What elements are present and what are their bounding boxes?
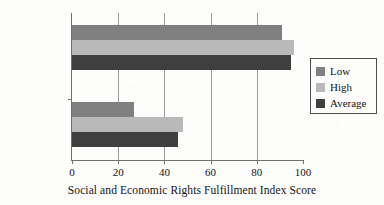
bar-high-bottom-10	[72, 117, 183, 132]
legend-label-low: Low	[330, 65, 350, 77]
bar-high-top-10	[72, 40, 294, 55]
x-tick-label-60: 60	[191, 166, 231, 178]
x-tick-40	[164, 160, 165, 164]
bar-average-top-10	[72, 55, 291, 70]
legend-item-low[interactable]: Low	[316, 63, 376, 79]
legend-item-high[interactable]: High	[316, 79, 376, 95]
bar-average-bottom-10	[72, 132, 178, 147]
x-tick-0	[72, 160, 73, 164]
legend-label-high: High	[330, 81, 352, 93]
x-axis-line	[71, 160, 303, 161]
bar-low-bottom-10	[72, 102, 134, 117]
x-tick-100	[303, 160, 304, 164]
x-tick-label-20: 20	[98, 166, 138, 178]
y-axis-midpoint-tick	[68, 99, 72, 100]
x-tick-20	[118, 160, 119, 164]
bar-low-top-10	[72, 25, 282, 40]
chart-figure: 020406080100 Top 10%Bottom 10% Social an…	[0, 0, 384, 205]
x-tick-label-40: 40	[144, 166, 184, 178]
x-tick-label-100: 100	[283, 166, 323, 178]
legend-swatch-high-icon	[316, 83, 325, 92]
plot-area: 020406080100 Top 10%Bottom 10%	[72, 13, 303, 160]
legend-swatch-low-icon	[316, 67, 325, 76]
chart-legend: LowHighAverage	[310, 58, 377, 114]
x-tick-60	[211, 160, 212, 164]
legend-item-average[interactable]: Average	[316, 95, 376, 111]
x-axis-title: Social and Economic Rights Fulfillment I…	[0, 184, 384, 197]
x-tick-label-0: 0	[52, 166, 92, 178]
x-tick-label-80: 80	[237, 166, 277, 178]
x-tick-80	[257, 160, 258, 164]
legend-swatch-average-icon	[316, 99, 325, 108]
legend-label-average: Average	[330, 97, 366, 109]
